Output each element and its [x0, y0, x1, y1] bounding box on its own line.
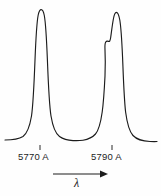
tick-label-5770: 5770 A	[18, 152, 49, 162]
lambda-axis-label: λ	[74, 177, 79, 189]
spectrum-figure: 5770 A 5790 A λ	[0, 0, 161, 196]
spectral-trace-path	[5, 10, 157, 142]
tick-label-5790: 5790 A	[91, 152, 122, 162]
wavelength-axis-arrowhead	[100, 171, 108, 178]
spectrum-plot	[0, 0, 161, 196]
